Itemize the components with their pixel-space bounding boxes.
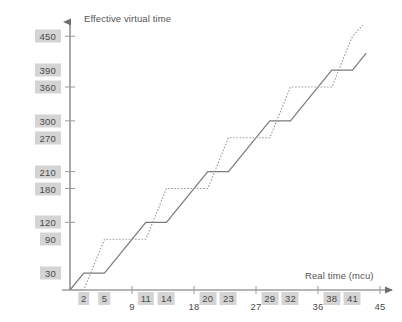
axes [62, 22, 392, 290]
x-tick-label: 41 [344, 292, 361, 305]
x-tick-label: 32 [282, 292, 299, 305]
x-tick-label: 14 [158, 292, 175, 305]
y-tick-label: 390 [35, 64, 61, 77]
x-tick-label: 11 [138, 292, 154, 305]
x-tick-label: 2 [78, 292, 89, 305]
series-line-dotted-staircase [70, 25, 363, 290]
y-tick-label: 360 [35, 81, 61, 94]
y-tick-label: 90 [40, 233, 61, 246]
y-axis-title: Effective virtual time [84, 13, 171, 24]
x-tick-label: 23 [220, 292, 237, 305]
x-tick-label: 29 [261, 292, 278, 305]
y-tick-label: 180 [35, 182, 61, 195]
y-tick-label: 300 [35, 114, 61, 127]
y-tick-label: 450 [35, 30, 61, 43]
x-tick-label: 20 [199, 292, 216, 305]
x-tick-label: 9 [127, 300, 136, 313]
y-tick-label: 270 [35, 131, 61, 144]
y-tick-label: 210 [35, 165, 61, 178]
x-tick-label: 38 [323, 292, 340, 305]
x-axis-title: Real time (mcu) [305, 270, 374, 281]
x-tick-label: 45 [373, 300, 388, 313]
y-tick-label: 120 [35, 216, 61, 229]
y-tick-label: 30 [40, 267, 61, 280]
series-line-solid-staircase [70, 53, 366, 290]
data-series-group [70, 25, 366, 290]
x-tick-label: 5 [99, 292, 110, 305]
chart-container: Effective virtual time Real time (mcu) 3… [0, 0, 402, 322]
